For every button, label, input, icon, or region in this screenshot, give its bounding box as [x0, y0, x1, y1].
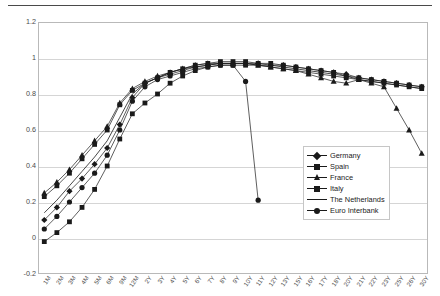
x-tick-label: 12Y: [267, 275, 278, 288]
x-tick-label: 11Y: [255, 275, 266, 287]
data-point: [42, 226, 47, 231]
data-point: [256, 198, 261, 203]
legend-marker-icon: [307, 172, 327, 183]
x-tick-label: 10Y: [242, 275, 253, 288]
x-axis-labels: 1M2M3M4M5M6M9M12M2Y3Y4Y5Y6Y7Y8Y9Y10Y11Y1…: [38, 275, 428, 296]
data-point: [406, 127, 412, 133]
data-point: [419, 150, 425, 156]
x-tick-label: 17Y: [318, 275, 329, 288]
x-tick-label: 1M: [42, 275, 52, 286]
x-tick-label: 9Y: [232, 275, 241, 285]
x-tick-label: 30Y: [418, 275, 429, 288]
chart-page: 1.210.80.60.40.20-0.2 1M2M3M4M5M6M9M12M2…: [0, 0, 440, 296]
x-tick-label: 15Y: [293, 275, 304, 288]
y-tick-label: 0: [2, 234, 36, 241]
data-point: [117, 137, 122, 142]
data-point: [130, 99, 135, 104]
data-point: [180, 70, 185, 75]
legend-item-label: Euro Interbank: [327, 207, 378, 214]
data-point: [117, 127, 122, 132]
y-tick-label: 1: [2, 54, 36, 61]
data-point: [230, 63, 235, 68]
legend-item-spain[interactable]: Spain: [307, 161, 385, 172]
x-tick-label: 3Y: [156, 275, 165, 285]
legend-marker-icon: [307, 161, 327, 172]
x-tick-label: 5Y: [181, 275, 190, 285]
data-point: [105, 164, 110, 169]
x-tick-label: 12M: [128, 275, 140, 288]
chart-legend: GermanySpainFranceItalyThe NetherlandsEu…: [303, 146, 390, 220]
data-point: [92, 171, 97, 176]
data-point: [105, 153, 110, 158]
x-tick-label: 2Y: [144, 275, 153, 285]
data-point: [79, 185, 84, 190]
x-tick-label: 26Y: [406, 275, 417, 288]
x-tick-label: 5M: [93, 275, 103, 286]
x-tick-label: 4Y: [169, 275, 178, 285]
legend-item-the-netherlands[interactable]: The Netherlands: [307, 194, 385, 205]
legend-item-germany[interactable]: Germany: [307, 150, 385, 161]
data-point: [54, 214, 59, 219]
y-tick-label: 0.4: [2, 162, 36, 169]
legend-item-label: Italy: [327, 185, 344, 192]
legend-marker-icon: [307, 194, 327, 205]
data-point: [42, 239, 47, 244]
x-tick-label: 22Y: [368, 275, 379, 288]
data-point: [130, 111, 135, 116]
data-point: [67, 219, 72, 224]
data-point: [193, 66, 198, 71]
x-tick-label: 21Y: [355, 275, 366, 288]
data-point: [80, 205, 85, 210]
y-tick-label: -0.2: [2, 270, 36, 277]
line-chart: 1.210.80.60.40.20-0.2 1M2M3M4M5M6M9M12M2…: [0, 0, 440, 296]
x-tick-label: 6Y: [194, 275, 203, 285]
data-point: [205, 64, 210, 69]
legend-item-france[interactable]: France: [307, 172, 385, 183]
x-tick-label: 3M: [67, 275, 77, 286]
x-tick-label: 6M: [105, 275, 115, 286]
data-point: [92, 187, 97, 192]
data-point: [142, 84, 147, 89]
x-tick-label: 13Y: [280, 275, 291, 288]
data-point: [41, 190, 47, 196]
data-point: [168, 81, 173, 86]
data-point: [67, 199, 72, 204]
legend-marker-icon: [307, 150, 327, 161]
x-tick-label: 25Y: [393, 275, 404, 288]
legend-item-label: Germany: [327, 152, 360, 159]
data-point: [243, 79, 248, 84]
x-tick-label: 4M: [80, 275, 90, 286]
legend-item-italy[interactable]: Italy: [307, 183, 385, 194]
x-tick-label: 18Y: [330, 275, 341, 288]
legend-item-euro-interbank[interactable]: Euro Interbank: [307, 205, 385, 216]
data-point: [155, 77, 160, 82]
x-tick-label: 2M: [55, 275, 65, 286]
y-tick-label: 0.8: [2, 90, 36, 97]
y-tick-label: 0.2: [2, 198, 36, 205]
legend-marker-icon: [307, 205, 327, 216]
series-line: [44, 65, 258, 229]
series-euro-interbank: [42, 63, 261, 232]
x-tick-label: 23Y: [381, 275, 392, 288]
data-point: [54, 230, 59, 235]
x-tick-label: 16Y: [305, 275, 316, 288]
data-point: [143, 101, 148, 106]
legend-item-label: The Netherlands: [327, 196, 385, 203]
data-point: [218, 63, 223, 68]
y-tick-label: 0.6: [2, 126, 36, 133]
x-tick-label: 8Y: [219, 275, 228, 285]
data-point: [167, 73, 172, 78]
data-point: [394, 105, 400, 111]
legend-item-label: France: [327, 174, 353, 181]
x-tick-label: 7Y: [206, 275, 215, 285]
legend-marker-icon: [307, 183, 327, 194]
data-point: [155, 92, 160, 97]
y-tick-label: 1.2: [2, 18, 36, 25]
x-tick-label: 20Y: [343, 275, 354, 288]
legend-item-label: Spain: [327, 163, 349, 170]
